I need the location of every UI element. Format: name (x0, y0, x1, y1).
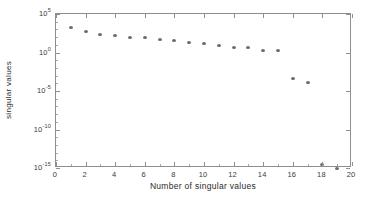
x-tick-mark (56, 162, 57, 166)
y-minor-tick-mark (56, 76, 58, 77)
data-point (143, 36, 147, 39)
data-point (246, 46, 250, 49)
x-minor-tick-mark (219, 164, 220, 166)
x-tick-mark-top (86, 14, 87, 18)
y-tick-label: 100 (39, 47, 51, 56)
x-tick-mark (86, 162, 87, 166)
x-tick-mark-top (234, 14, 235, 18)
y-tick-mark (56, 53, 60, 54)
data-point (98, 33, 102, 36)
x-minor-tick-mark (160, 164, 161, 166)
data-point (84, 30, 88, 33)
y-tick-mark (56, 91, 60, 92)
y-minor-tick-mark (56, 114, 58, 115)
x-minor-tick-mark (100, 164, 101, 166)
x-tick-mark (115, 162, 116, 166)
x-minor-tick-mark (337, 164, 338, 166)
x-tick-mark (322, 162, 323, 166)
x-minor-tick-mark (130, 164, 131, 166)
data-point (202, 42, 206, 45)
y-minor-tick-mark (56, 83, 58, 84)
x-axis-title: Number of singular values (55, 181, 351, 191)
x-tick-label: 10 (199, 170, 208, 179)
y-minor-tick-mark (56, 29, 58, 30)
data-point (69, 26, 73, 29)
x-tick-label: 2 (82, 170, 86, 179)
data-point (113, 34, 117, 37)
y-tick-mark-right (346, 53, 350, 54)
x-tick-mark (263, 162, 264, 166)
x-tick-mark-top (174, 14, 175, 18)
x-tick-label: 20 (347, 170, 356, 179)
y-tick-mark-right (346, 168, 350, 169)
y-minor-tick-mark (56, 160, 58, 161)
y-minor-tick-mark (56, 106, 58, 107)
x-minor-tick-mark (278, 164, 279, 166)
y-axis-title: singular values (4, 61, 13, 119)
x-tick-mark (293, 162, 294, 166)
x-tick-label: 6 (142, 170, 146, 179)
x-tick-label: 14 (258, 170, 267, 179)
y-tick-mark-right (346, 91, 350, 92)
x-tick-mark (204, 162, 205, 166)
x-minor-tick-mark (248, 164, 249, 166)
x-minor-tick-mark (71, 164, 72, 166)
x-tick-mark-top (322, 14, 323, 18)
plot-area (56, 14, 350, 166)
y-minor-tick-mark (56, 68, 58, 69)
y-minor-tick-mark (56, 45, 58, 46)
data-point (276, 49, 280, 52)
data-point (217, 44, 221, 47)
y-tick-mark (56, 14, 60, 15)
y-minor-tick-mark (56, 37, 58, 38)
x-tick-label: 12 (228, 170, 237, 179)
y-tick-label: 10-15 (34, 163, 51, 172)
x-tick-label: 18 (317, 170, 326, 179)
x-tick-mark-top (263, 14, 264, 18)
data-point (128, 36, 132, 39)
data-point (306, 81, 310, 84)
x-tick-mark-top (145, 14, 146, 18)
data-point (291, 77, 295, 80)
x-tick-mark (174, 162, 175, 166)
y-minor-tick-mark (56, 99, 58, 100)
x-minor-tick-mark (308, 164, 309, 166)
x-tick-mark-top (352, 14, 353, 18)
y-tick-label: 105 (39, 9, 51, 18)
y-tick-mark-right (346, 14, 350, 15)
x-tick-label: 0 (53, 170, 57, 179)
data-point (172, 39, 176, 42)
y-tick-mark-right (346, 130, 350, 131)
x-tick-label: 4 (112, 170, 116, 179)
chart-screenshot: singular values Number of singular value… (0, 0, 372, 197)
data-point (261, 49, 265, 52)
plot-frame (55, 13, 351, 167)
x-tick-mark (352, 162, 353, 166)
y-minor-tick-mark (56, 60, 58, 61)
y-minor-tick-mark (56, 122, 58, 123)
y-tick-mark (56, 130, 60, 131)
x-tick-mark-top (293, 14, 294, 18)
data-point (232, 46, 236, 49)
y-tick-label: 10-5 (37, 86, 51, 95)
y-tick-label: 10-10 (34, 124, 51, 133)
y-tick-mark (56, 168, 60, 169)
x-tick-mark (234, 162, 235, 166)
data-point (158, 38, 162, 41)
data-point (187, 41, 191, 44)
x-tick-label: 16 (287, 170, 296, 179)
x-tick-label: 8 (171, 170, 175, 179)
x-minor-tick-mark (189, 164, 190, 166)
x-tick-mark-top (115, 14, 116, 18)
y-minor-tick-mark (56, 137, 58, 138)
y-minor-tick-mark (56, 22, 58, 23)
x-tick-mark (145, 162, 146, 166)
data-point (335, 167, 339, 170)
y-minor-tick-mark (56, 145, 58, 146)
y-minor-tick-mark (56, 153, 58, 154)
x-tick-mark-top (204, 14, 205, 18)
